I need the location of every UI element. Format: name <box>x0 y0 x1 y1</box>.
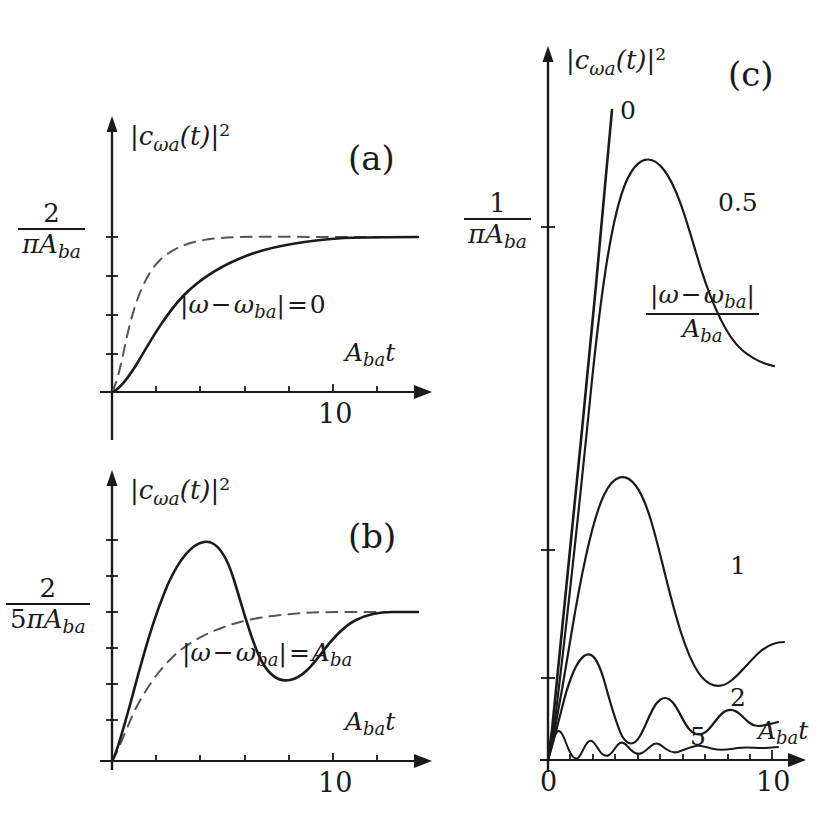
y-tick-num-a: 2 <box>18 200 85 228</box>
x-tick-10-b: 10 <box>318 767 352 798</box>
panel-b: |cωa(t)|2 2 5πAba (b) |ω−ωba|=Aba Abat 1… <box>0 440 460 810</box>
curve-label-a-value: 0 <box>310 290 326 319</box>
y-tick-den-b: 5πAba <box>6 603 90 637</box>
x-axis-arrow-c <box>788 753 806 767</box>
curve-c-0.5 <box>548 160 774 760</box>
curve-tag-c-1: 1 <box>730 551 746 580</box>
panel-c-plot <box>440 30 833 820</box>
y-tick-num-b: 2 <box>6 575 90 603</box>
y-axis-title-b: |cωa(t)|2 <box>130 476 230 508</box>
curve-tag-c-0: 0 <box>620 96 636 125</box>
y-axis-arrow-a <box>107 116 118 132</box>
x-tick-0-c: 0 <box>540 766 557 797</box>
x-axis-title-c: Abat <box>758 718 808 747</box>
y-tick-label-b: 2 5πAba <box>6 575 90 637</box>
y-tick-den-c: πAba <box>464 218 531 252</box>
legend-num-c: |ω−ωba| <box>646 282 759 313</box>
y-axis-arrow-b <box>107 470 118 486</box>
x-axis-arrow-a <box>414 385 432 399</box>
panel-tag-c: (c) <box>728 54 774 94</box>
y-tick-label-c: 1 πAba <box>464 190 531 252</box>
x-axis-arrow-b <box>414 754 432 768</box>
curve-c-1 <box>548 477 784 760</box>
legend-title-c: |ω−ωba| Aba <box>646 282 759 346</box>
y-axis-arrow-c <box>543 46 554 62</box>
x-axis-title-a: Abat <box>345 340 395 369</box>
legend-den-c: Aba <box>646 313 759 346</box>
y-axis-title-a: |cωa(t)|2 <box>130 122 230 154</box>
x-axis-title-b: Abat <box>345 709 395 738</box>
figure-root: |cωa(t)|2 2 πAba (a) |ω−ωba|=0 Abat 10 <box>0 0 833 827</box>
panel-c: |cωa(t)|2 (c) 1 πAba |ω−ωba| Aba 0 0.5 1… <box>440 30 833 820</box>
y-axis-title-c: |cωa(t)|2 <box>566 46 666 78</box>
curve-label-a: |ω−ωba|=0 <box>180 292 326 321</box>
curve-tag-c-2: 2 <box>730 683 746 712</box>
panel-a: |cωa(t)|2 2 πAba (a) |ω−ωba|=0 Abat 10 <box>0 90 460 430</box>
x-tick-10-c: 10 <box>756 766 790 797</box>
x-ticks-a <box>156 384 377 392</box>
x-ticks-b <box>156 753 377 761</box>
curve-label-b: |ω−ωba|=Aba <box>182 640 352 669</box>
panel-tag-a: (a) <box>348 138 395 178</box>
curve-c-5 <box>548 731 778 760</box>
curve-tag-c-05: 0.5 <box>718 188 758 217</box>
y-tick-label-a: 2 πAba <box>18 200 85 262</box>
curve-c-0 <box>548 110 612 760</box>
y-tick-num-c: 1 <box>464 190 531 218</box>
panel-tag-b: (b) <box>348 516 396 556</box>
x-tick-10-a: 10 <box>318 398 352 429</box>
y-tick-den-a: πAba <box>18 228 85 262</box>
curve-tag-c-5: 5 <box>690 722 706 751</box>
